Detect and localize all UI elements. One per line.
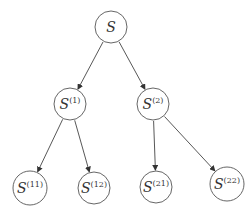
edge-S1-to-S12 (75, 120, 90, 171)
arrow-line (75, 120, 90, 171)
tree-diagram: SS(1)S(2)S(11)S(12)S(21)S(22) (0, 0, 252, 213)
node-label-base: S (106, 19, 116, 35)
edge-S2-to-S21 (154, 121, 156, 170)
node-label-base: S (81, 180, 91, 196)
node-label-superscript: (1) (69, 96, 80, 105)
node-label-superscript: (21) (153, 179, 169, 188)
node-S2: S(2) (137, 88, 169, 120)
node-label-superscript: (11) (27, 180, 43, 189)
edge-S-to-S2 (119, 42, 145, 89)
node-label-base: S (60, 96, 70, 112)
node-label-superscript: (12) (91, 180, 107, 189)
node-label-superscript: (22) (224, 176, 240, 185)
node-label-base: S (214, 176, 224, 192)
node-S: S (95, 11, 127, 43)
node-S11: S(11) (13, 171, 47, 205)
node-S12: S(12) (78, 172, 110, 204)
edge-S2-to-S22 (165, 117, 215, 171)
arrow-line (154, 121, 156, 170)
arrow-line (165, 117, 215, 171)
arrow-line (38, 119, 63, 171)
node-label-base: S (17, 180, 27, 196)
edge-S1-to-S11 (38, 119, 63, 171)
nodes-group: SS(1)S(2)S(11)S(12)S(21)S(22) (13, 11, 244, 205)
node-S21: S(21) (140, 171, 172, 203)
node-label: S (106, 19, 116, 35)
node-S22: S(22) (210, 167, 244, 201)
edge-S-to-S1 (78, 42, 103, 89)
arrow-line (119, 42, 145, 89)
arrow-line (78, 42, 103, 89)
node-label-superscript: (2) (152, 96, 163, 105)
node-label-base: S (143, 179, 153, 195)
node-label-base: S (143, 96, 153, 112)
node-S1: S(1) (54, 88, 86, 120)
